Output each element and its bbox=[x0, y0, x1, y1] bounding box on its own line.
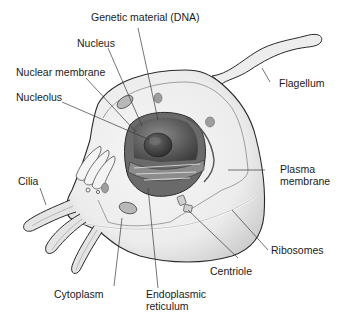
label-nucleus: Nucleus bbox=[77, 37, 115, 49]
label-nuclear-membrane: Nuclear membrane bbox=[16, 66, 105, 78]
label-endoplasmic-reticulum-line1: Endoplasmic bbox=[146, 288, 206, 300]
label-ribosomes: Ribosomes bbox=[271, 244, 324, 256]
label-endoplasmic-reticulum-line2: reticulum bbox=[146, 300, 189, 312]
label-plasma-membrane-line1: Plasma bbox=[280, 163, 315, 175]
nucleus bbox=[125, 112, 206, 196]
label-plasma-membrane-line2: membrane bbox=[280, 175, 330, 187]
nucleolus bbox=[144, 133, 172, 157]
label-nucleolus: Nucleolus bbox=[16, 91, 62, 103]
label-flagellum: Flagellum bbox=[279, 77, 325, 89]
label-genetic-material: Genetic material (DNA) bbox=[91, 11, 200, 23]
label-cytoplasm: Cytoplasm bbox=[54, 288, 104, 300]
cell-illustration bbox=[0, 0, 343, 319]
label-centriole: Centriole bbox=[210, 265, 252, 277]
animal-cell-diagram: Genetic material (DNA) Nucleus Nuclear m… bbox=[0, 0, 343, 319]
label-cilia: Cilia bbox=[18, 175, 38, 187]
